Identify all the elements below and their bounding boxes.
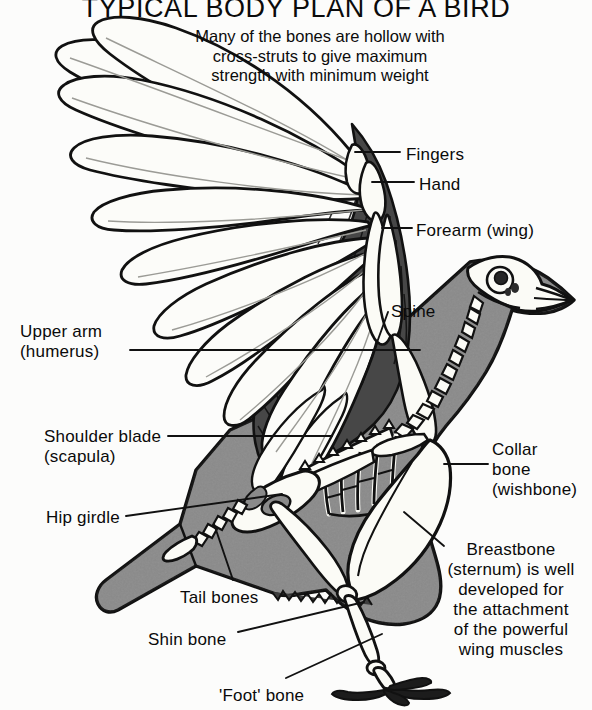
label-upper-arm: Upper arm (humerus) xyxy=(20,322,102,362)
label-fingers: Fingers xyxy=(406,145,464,165)
wing-feathers xyxy=(56,17,383,497)
label-spine: Spine xyxy=(391,302,435,322)
label-tail-bones: Tail bones xyxy=(180,588,259,608)
label-collar-bone: Collar bone (wishbone) xyxy=(492,440,577,500)
label-hip-girdle: Hip girdle xyxy=(46,508,120,528)
label-breastbone: Breastbone (sternum) is well developed f… xyxy=(432,540,590,660)
label-forearm-wing: Forearm (wing) xyxy=(416,221,534,241)
bird-anatomy-figure: TYPICAL BODY PLAN OF A BIRD Many of the … xyxy=(0,0,592,710)
page-title: TYPICAL BODY PLAN OF A BIRD xyxy=(0,0,592,24)
label-hand: Hand xyxy=(419,175,460,195)
label-shoulder-blade: Shoulder blade (scapula) xyxy=(44,427,161,467)
label-shin-bone: Shin bone xyxy=(148,630,226,650)
label-foot-bone: 'Foot' bone xyxy=(219,686,304,706)
intro-text: Many of the bones are hollow with cross-… xyxy=(176,27,464,86)
